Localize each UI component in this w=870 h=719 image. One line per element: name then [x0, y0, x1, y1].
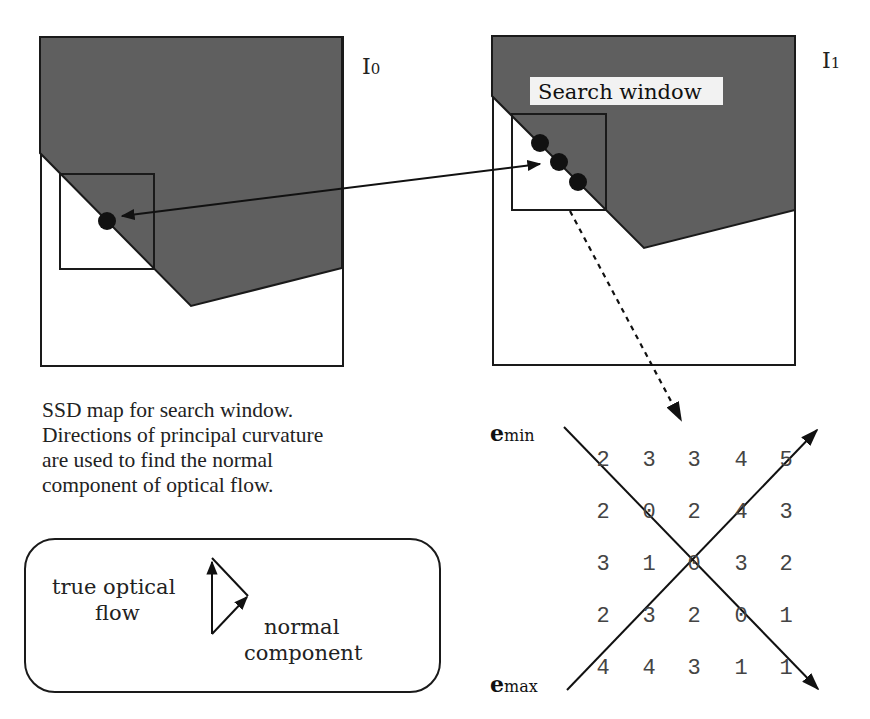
- frame-i0-label: I0: [362, 54, 380, 79]
- ssd-cell-r4-c0: 4: [596, 656, 609, 681]
- ssd-cell-r3-c3: 0: [734, 604, 747, 629]
- candidate-point-1: [531, 134, 549, 152]
- candidate-point-2: [550, 153, 568, 171]
- ssd-cell-r2-c3: 3: [734, 552, 747, 577]
- ssd-cell-r3-c0: 2: [596, 604, 609, 629]
- legend-box: true optical flow normal component: [25, 539, 440, 692]
- ssd-cell-r3-c1: 3: [642, 604, 655, 629]
- legend-true-flow-line2: flow: [95, 601, 140, 625]
- frame-i0-point: [98, 212, 116, 230]
- ssd-cell-r2-c2: 0: [687, 552, 700, 577]
- ssd-cell-r3-c4: 1: [779, 604, 792, 629]
- ssd-caption: SSD map for search window. Directions of…: [42, 398, 462, 498]
- frame-i0: [40, 37, 343, 366]
- ssd-cell-r0-c1: 3: [642, 448, 655, 473]
- candidate-point-3: [569, 173, 587, 191]
- diagram-canvas: I0 I1 Search window emin emax 2334520243…: [0, 0, 870, 719]
- ssd-cell-r4-c3: 1: [734, 656, 747, 681]
- ssd-cell-r1-c3: 4: [734, 500, 747, 525]
- caption-line: component of optical flow.: [42, 473, 462, 498]
- caption-line: SSD map for search window.: [42, 398, 462, 423]
- ssd-cell-r4-c4: 1: [779, 656, 792, 681]
- search-window-label: Search window: [538, 80, 702, 104]
- ssd-cell-r4-c1: 4: [642, 656, 655, 681]
- ssd-cell-r2-c0: 3: [596, 552, 609, 577]
- ssd-cell-r0-c2: 3: [687, 448, 700, 473]
- legend-true-flow-line1: true optical: [52, 575, 176, 599]
- ssd-cell-r2-c4: 2: [779, 552, 792, 577]
- ssd-cell-r2-c1: 1: [642, 552, 655, 577]
- ssd-cell-r0-c3: 4: [734, 448, 747, 473]
- ssd-cell-r4-c2: 3: [687, 656, 700, 681]
- caption-line: Directions of principal curvature: [42, 423, 462, 448]
- emax-label: emax: [490, 671, 538, 697]
- frame-i1-label: I1: [822, 48, 840, 73]
- caption-line: are used to find the normal: [42, 448, 462, 473]
- ssd-cell-r0-c0: 2: [596, 448, 609, 473]
- ssd-cell-r1-c0: 2: [596, 500, 609, 525]
- ssd-cell-r0-c4: 5: [779, 448, 792, 473]
- ssd-cell-r1-c1: 0: [642, 500, 655, 525]
- ssd-cell-r1-c4: 3: [779, 500, 792, 525]
- emin-label: emin: [490, 420, 535, 446]
- legend-border: [25, 539, 440, 692]
- ssd-cell-r1-c2: 2: [687, 500, 700, 525]
- legend-normal-line2: component: [244, 641, 363, 665]
- ssd-cell-r3-c2: 2: [687, 604, 700, 629]
- ssd-grid: 2334520243310322320144311: [596, 448, 792, 681]
- legend-normal-line1: normal: [264, 615, 340, 639]
